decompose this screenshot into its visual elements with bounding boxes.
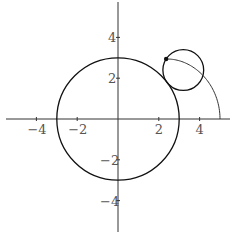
x-tick-label: 4 (196, 122, 204, 137)
axis-ticks: −4−22442−2−4 (27, 30, 203, 208)
x-tick-label: −2 (68, 122, 87, 137)
y-tick-label: 4 (108, 30, 116, 45)
x-tick-label: −4 (27, 122, 46, 137)
epicycloid-trace (166, 59, 220, 119)
epicycloid-diagram: −4−22442−2−4 (0, 0, 231, 238)
y-tick-label: −2 (100, 153, 119, 168)
y-tick-label: −4 (100, 194, 119, 209)
tracing-point (164, 57, 168, 61)
y-tick-label: 2 (108, 71, 116, 86)
x-tick-label: 2 (155, 122, 163, 137)
